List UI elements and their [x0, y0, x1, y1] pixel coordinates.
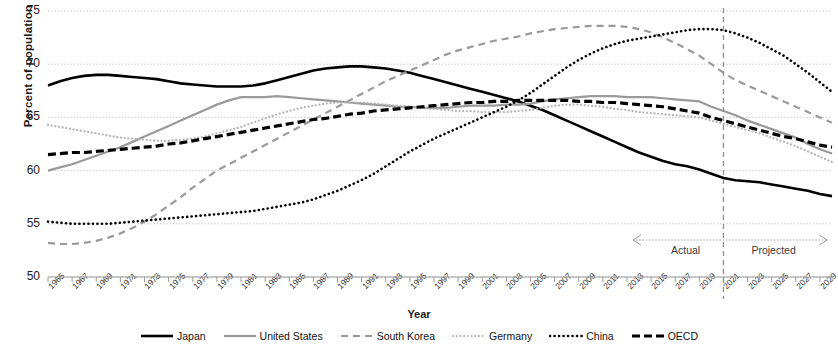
series-line-germany	[48, 103, 832, 163]
legend-item-china[interactable]: China	[549, 330, 613, 342]
legend-swatch-solid	[140, 330, 174, 342]
legend-label: United States	[260, 330, 323, 342]
annotation-projected: Projected	[751, 244, 795, 256]
legend-label: South Korea	[377, 330, 435, 342]
series-line-united-states	[48, 96, 832, 170]
legend-swatch-dotted	[549, 330, 583, 342]
legend-item-germany[interactable]: Germany	[452, 330, 532, 342]
annotation-actual: Actual	[671, 244, 700, 256]
chart-legend: JapanUnited StatesSouth KoreaGermanyChin…	[0, 330, 838, 342]
working-age-population-chart: Percent of population Year 505560657075 …	[0, 0, 838, 350]
legend-item-oecd[interactable]: OECD	[631, 330, 698, 342]
legend-label: Japan	[177, 330, 206, 342]
legend-swatch-dashed	[631, 330, 665, 342]
legend-item-united-states[interactable]: United States	[223, 330, 323, 342]
series-line-japan	[48, 66, 832, 196]
legend-swatch-solid	[223, 330, 257, 342]
legend-item-south-korea[interactable]: South Korea	[340, 330, 435, 342]
legend-label: OECD	[668, 330, 698, 342]
legend-item-japan[interactable]: Japan	[140, 330, 206, 342]
legend-label: China	[586, 330, 613, 342]
legend-swatch-dotted	[452, 330, 486, 342]
legend-label: Germany	[489, 330, 532, 342]
legend-swatch-dashed	[340, 330, 374, 342]
plot-area	[0, 0, 838, 350]
